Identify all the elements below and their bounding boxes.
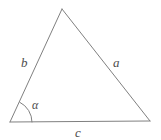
side-label-a: a: [113, 56, 120, 69]
angle-label-alpha: α: [32, 99, 38, 111]
triangle-diagram: b a c α: [0, 0, 161, 140]
side-label-c: c: [75, 126, 81, 139]
triangle-side-c-line: [10, 121, 150, 122]
triangle-svg: [0, 0, 161, 140]
angle-alpha-arc: [20, 102, 32, 122]
side-label-b: b: [21, 56, 28, 69]
triangle-side-a-line: [62, 9, 150, 121]
